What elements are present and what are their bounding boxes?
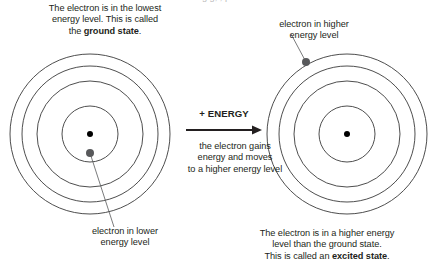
leader-line-lower xyxy=(90,153,114,227)
caption-line: the electron gains xyxy=(199,141,271,151)
caption-line: level than the ground state. xyxy=(272,239,381,249)
nucleus-left xyxy=(87,131,93,137)
label-line: electron in lower xyxy=(92,226,158,236)
caption-line: the xyxy=(69,26,84,36)
energy-arrow-label: + ENERGY xyxy=(186,108,262,119)
caption-line: . xyxy=(387,251,390,261)
caption-line: energy level. This is called xyxy=(52,14,158,24)
nucleus-right xyxy=(344,131,350,137)
label-line: electron in higher xyxy=(279,19,349,29)
label-line: energy level xyxy=(290,30,339,40)
electron-higher-label: electron in higherenergy level xyxy=(240,19,388,42)
ground-state-caption: The electron is in the lowestenergy leve… xyxy=(2,3,208,37)
energy-transfer-caption: the electron gainsenergy and movesto a h… xyxy=(181,141,289,175)
electron-lower-label: electron in lowerenergy level xyxy=(62,226,188,249)
caption-line: to a higher energy level xyxy=(188,164,282,174)
electron-energy-level-diagram: g g, , p + ENERGY The xyxy=(0,0,432,269)
caption-bold-term: excited state xyxy=(332,251,387,261)
caption-line: The electron is in the lowest xyxy=(49,3,161,13)
caption-line: . xyxy=(139,26,142,36)
caption-line: This is called an xyxy=(264,251,332,261)
label-line: energy level xyxy=(101,237,150,247)
caption-line: The electron is in a higher energy xyxy=(260,228,395,238)
caption-bold-term: ground state xyxy=(84,26,139,36)
excited-state-caption: The electron is in a higher energylevel … xyxy=(224,228,430,262)
caption-line: energy and moves xyxy=(198,152,273,162)
energy-arrow-icon xyxy=(186,126,262,135)
